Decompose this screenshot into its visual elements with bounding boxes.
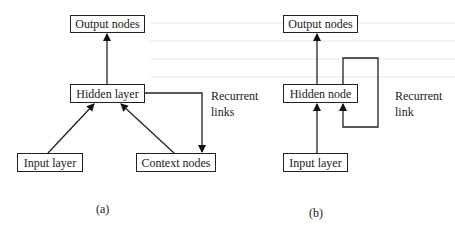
node-label: Hidden node: [290, 88, 352, 100]
node-context-a: Context nodes: [136, 153, 216, 172]
node-input-layer-b: Input layer: [283, 153, 348, 172]
node-input-layer-a: Input layer: [17, 153, 83, 172]
edge-recurrent-links-a: [145, 93, 202, 152]
recurrent-link-label: Recurrent link: [395, 88, 442, 120]
node-label: Output nodes: [288, 18, 352, 30]
node-label: Input layer: [24, 157, 76, 169]
node-label: Input layer: [289, 157, 341, 169]
node-label: Context nodes: [142, 157, 211, 169]
node-output-b: Output nodes: [283, 15, 358, 33]
label-line: Recurrent: [395, 88, 442, 104]
recurrent-links-label: Recurrent links: [211, 88, 258, 120]
node-output-a: Output nodes: [70, 15, 145, 33]
node-hidden-b: Hidden node: [283, 84, 358, 103]
label-line: Recurrent: [211, 88, 258, 104]
edge-context-to-hidden-a: [121, 104, 174, 153]
node-label: Output nodes: [75, 18, 139, 30]
panel-caption-b: (b): [309, 206, 323, 221]
label-line: link: [395, 104, 442, 120]
edge-input-to-hidden-a: [48, 104, 94, 153]
node-hidden-layer-a: Hidden layer: [70, 84, 145, 103]
panel-caption-a: (a): [96, 202, 109, 217]
node-label: Hidden layer: [76, 88, 138, 100]
label-line: links: [211, 104, 258, 120]
